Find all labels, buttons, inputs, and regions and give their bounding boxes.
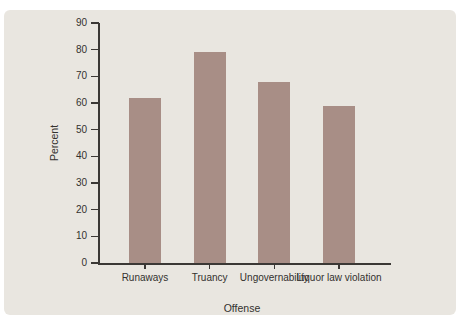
y-tick-mark: [91, 182, 99, 183]
bar: [323, 106, 355, 263]
figure-page: { "chart_data": { "type": "bar", "title"…: [0, 0, 464, 328]
y-tick-mark: [91, 49, 99, 50]
y-tick-mark: [91, 262, 99, 263]
x-axis-line: [98, 263, 391, 265]
bar: [129, 98, 161, 263]
y-tick-mark: [91, 102, 99, 103]
y-axis-line: [98, 23, 100, 265]
y-tick-label: 60: [54, 97, 87, 109]
y-tick-label: 10: [54, 230, 87, 242]
bar: [258, 82, 290, 263]
x-axis-title: Offense: [197, 301, 287, 315]
x-tick-mark: [274, 265, 275, 269]
y-tick-label: 40: [54, 150, 87, 162]
y-tick-label: 20: [54, 204, 87, 216]
y-tick-label: 80: [54, 44, 87, 56]
y-tick-label: 0: [54, 257, 87, 269]
y-tick-mark: [91, 76, 99, 77]
y-tick-mark: [91, 129, 99, 130]
y-tick-mark: [91, 156, 99, 157]
chart-panel: Percent 0102030405060708090 RunawaysTrua…: [4, 10, 456, 315]
x-tick-mark: [144, 265, 145, 269]
y-tick-mark: [91, 22, 99, 23]
y-tick-mark: [91, 236, 99, 237]
x-tick-mark: [338, 265, 339, 269]
y-tick-label: 90: [54, 17, 87, 29]
x-category-label: Liquor law violation: [293, 271, 385, 284]
y-axis-title: Percent: [47, 103, 61, 183]
bar: [194, 52, 226, 263]
y-tick-mark: [91, 209, 99, 210]
y-tick-label: 70: [54, 70, 87, 82]
y-tick-label: 50: [54, 124, 87, 136]
y-tick-label: 30: [54, 177, 87, 189]
x-tick-mark: [209, 265, 210, 269]
